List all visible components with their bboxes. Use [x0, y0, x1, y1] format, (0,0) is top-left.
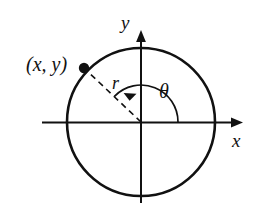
arrow-right-icon [231, 118, 243, 128]
x-axis [42, 118, 243, 128]
point-coordinates-label: (x, y) [26, 54, 67, 74]
y-axis-label: y [121, 13, 129, 32]
arrow-up-icon [136, 30, 146, 42]
filled-dot-icon [79, 63, 89, 73]
y-axis [136, 30, 146, 203]
polar-coordinate-figure: y x r θ (x, y) [0, 0, 272, 206]
radius-label: r [112, 74, 119, 92]
angle-arrowhead-icon [124, 93, 137, 101]
angle-label: θ [159, 81, 169, 101]
x-axis-label: x [232, 131, 240, 150]
figure-canvas [0, 0, 272, 206]
